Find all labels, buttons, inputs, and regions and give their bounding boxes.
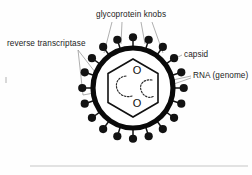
glycoprotein-knob	[180, 84, 188, 92]
virus-diagram-figure: O O glycoprotein knobs reverse transcrip…	[0, 0, 252, 175]
glycoprotein-knob	[159, 125, 167, 133]
glycoprotein-knob	[88, 54, 96, 62]
glycoprotein-knob	[129, 135, 137, 143]
glycoprotein-knob	[99, 125, 107, 133]
genome-o-mark-lower: O	[133, 97, 142, 109]
glycoprotein-knob	[145, 132, 153, 140]
glycoprotein-knob	[177, 68, 185, 76]
glycoprotein-knob	[159, 43, 167, 51]
label-capsid: capsid	[184, 50, 209, 59]
edge-artifact-speck	[5, 77, 7, 83]
glycoprotein-knob	[113, 132, 121, 140]
label-rna-genome: RNA (genome)	[193, 71, 249, 80]
glycoprotein-knob	[145, 36, 153, 44]
glycoprotein-knob	[81, 100, 89, 108]
glycoprotein-knob	[78, 84, 86, 92]
glycoprotein-knob	[170, 54, 178, 62]
label-glycoprotein-knobs: glycoprotein knobs	[96, 10, 166, 19]
virus-diagram-canvas: O O glycoprotein knobs reverse transcrip…	[0, 0, 252, 175]
glycoprotein-knob	[129, 33, 137, 41]
label-reverse-transcriptase: reverse transcriptase	[7, 39, 86, 48]
glycoprotein-knob	[170, 114, 178, 122]
glycoprotein-knob	[113, 36, 121, 44]
glycoprotein-knob	[99, 43, 107, 51]
glycoprotein-knob	[88, 114, 96, 122]
genome-o-mark-upper: O	[133, 64, 142, 76]
glycoprotein-knob	[177, 100, 185, 108]
glycoprotein-knob	[81, 68, 89, 76]
